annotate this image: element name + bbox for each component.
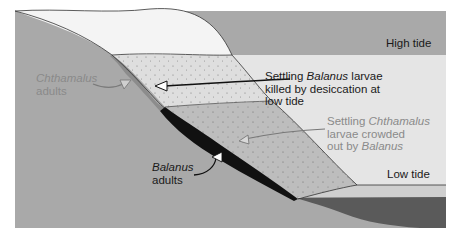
chthamalus-larvae-line3-species: Balanus — [362, 140, 404, 152]
balanus-larvae-line1-pre: Settling — [265, 70, 307, 82]
chthamalus-larvae-line1-pre: Settling — [327, 115, 369, 127]
chthamalus-adults-text: adults — [36, 85, 97, 98]
balanus-larvae-species: Balanus — [307, 70, 349, 82]
high-tide-label: High tide — [386, 37, 431, 50]
balanus-larvae-line1: Settling Balanus larvae — [265, 70, 383, 83]
balanus-adults-text: adults — [152, 174, 194, 187]
chthamalus-adults-species: Chthamalus — [36, 72, 97, 85]
chthamalus-larvae-label: Settling Chthamalus larvae crowded out b… — [327, 115, 430, 153]
chthamalus-larvae-line3-pre: out by — [327, 140, 362, 152]
balanus-larvae-line3: low tide — [265, 95, 383, 108]
balanus-larvae-line2: killed by desiccation at — [265, 83, 383, 96]
bottom-margin — [0, 228, 459, 243]
chthamalus-larvae-line2: larvae crowded — [327, 128, 430, 141]
chthamalus-adults-label: Chthamalus adults — [36, 72, 97, 97]
balanus-larvae-label: Settling Balanus larvae killed by desicc… — [265, 70, 383, 108]
balanus-larvae-line1-post: larvae — [348, 70, 383, 82]
chthamalus-larvae-line3: out by Balanus — [327, 140, 430, 153]
balanus-adults-label: Balanus adults — [152, 161, 194, 186]
low-tide-label: Low tide — [387, 168, 430, 181]
chthamalus-larvae-line1: Settling Chthamalus — [327, 115, 430, 128]
chthamalus-larvae-species: Chthamalus — [369, 115, 430, 127]
balanus-adults-species: Balanus — [152, 161, 194, 174]
